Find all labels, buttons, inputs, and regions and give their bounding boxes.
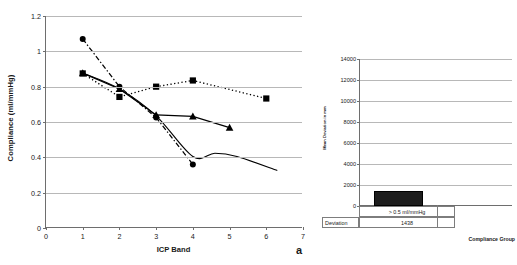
y-tick-mark-b (357, 143, 360, 144)
y-tick-mark-b (357, 122, 360, 123)
x-tick-label: 5 (228, 232, 232, 241)
bar-1 (374, 191, 423, 206)
y-tick-mark-b (357, 80, 360, 81)
x-tick-mark (193, 227, 194, 230)
gridline-y-b (360, 59, 512, 60)
y-tick-label-b: 12000 (340, 77, 356, 83)
gridline-y-b (360, 101, 512, 102)
table-cell-spacer (455, 206, 515, 217)
table-cell-row-label: Deviation (322, 217, 359, 228)
plot-area-a: 00.20.40.60.811.201234567 (45, 16, 302, 228)
x-tick-label: 7 (301, 232, 305, 241)
x-tick-mark (230, 227, 231, 230)
x-tick-label: 3 (154, 232, 158, 241)
x-axis-label-b: Compliance Group (469, 236, 515, 242)
table-cell-spacer-2 (455, 217, 515, 228)
data-point-square (190, 77, 196, 83)
y-tick-label: 0.2 (31, 188, 41, 197)
gridline-y-b (360, 164, 512, 165)
y-tick-label: 0.4 (31, 153, 41, 162)
y-tick-mark (43, 51, 46, 52)
y-tick-label-b: 10000 (340, 98, 356, 104)
y-tick-label: 1 (37, 47, 41, 56)
x-tick-mark (119, 227, 120, 230)
y-tick-label: 0 (37, 224, 41, 233)
y-tick-label-b: 6000 (344, 140, 356, 146)
gridline-y (46, 51, 302, 52)
data-point-square (263, 95, 269, 101)
x-tick-mark (266, 227, 267, 230)
table-row-category: > 0.5 ml/mmHg (322, 206, 515, 217)
table-row-deviation: Deviation 1438 (322, 217, 515, 228)
y-axis-label-a: Compliance (ml/mmHg) (6, 0, 15, 58)
y-tick-mark-b (357, 101, 360, 102)
figure-container: Compliance (ml/mmHg) 00.20.40.60.811.201… (0, 0, 517, 265)
gridline-y (46, 87, 302, 88)
panel-letter-a: a (296, 244, 302, 256)
x-tick-label: 6 (264, 232, 268, 241)
y-tick-label-b: 4000 (344, 161, 356, 167)
x-tick-label: 1 (81, 232, 85, 241)
table-cell-category: > 0.5 ml/mmHg (359, 206, 455, 217)
y-tick-mark-b (357, 164, 360, 165)
y-tick-label: 1.2 (31, 12, 41, 21)
y-tick-label: 0.6 (31, 118, 41, 127)
data-point-circle (190, 161, 196, 167)
x-tick-mark (156, 227, 157, 230)
gridline-y (46, 193, 302, 194)
y-tick-label-b: 2000 (344, 182, 356, 188)
plot-area-b: 02000400060008000100001200014000 (359, 59, 512, 206)
x-tick-label: 0 (44, 232, 48, 241)
gridline-y-b (360, 80, 512, 81)
y-tick-mark (43, 193, 46, 194)
panel-b-bar-chart: Mean Deviation in mm 0200040006000800010… (320, 0, 517, 265)
gridline-y (46, 122, 302, 123)
y-tick-mark-b (357, 59, 360, 60)
y-tick-label-b: 14000 (340, 56, 356, 62)
x-tick-mark (303, 227, 304, 230)
gridline-y-b (360, 122, 512, 123)
y-tick-mark (43, 122, 46, 123)
gridline-y-b (360, 143, 512, 144)
y-tick-label-b: 8000 (344, 119, 356, 125)
gridline-y (46, 157, 302, 158)
x-tick-label: 4 (191, 232, 195, 241)
y-tick-label: 0.8 (31, 82, 41, 91)
x-tick-label: 2 (117, 232, 121, 241)
data-table-b: > 0.5 ml/mmHg Deviation 1438 (322, 206, 515, 228)
y-axis-label-b: Mean Deviation in mm (322, 0, 327, 80)
x-tick-mark (83, 227, 84, 230)
data-point-square (116, 94, 122, 100)
table-cell-value: 1438 (359, 217, 455, 228)
y-tick-mark (43, 157, 46, 158)
y-tick-mark-b (357, 185, 360, 186)
x-axis-label-a: ICP Band (45, 245, 302, 254)
gridline-y (46, 16, 302, 17)
panel-a-line-chart: Compliance (ml/mmHg) 00.20.40.60.811.201… (0, 0, 320, 265)
x-tick-mark (46, 227, 47, 230)
y-tick-mark (43, 87, 46, 88)
gridline-y-b (360, 185, 512, 186)
data-point-circle (80, 36, 86, 42)
table-cell-blank (322, 206, 359, 217)
y-tick-mark (43, 16, 46, 17)
